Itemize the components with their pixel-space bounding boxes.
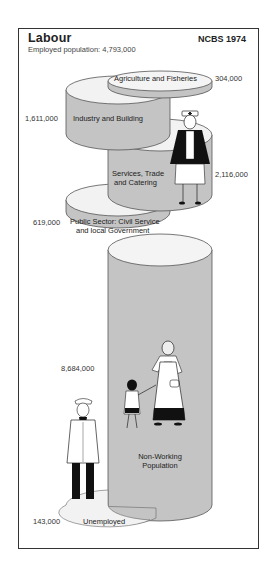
agriculture-value: 304,000 — [215, 74, 242, 83]
nonworking-label-line1: Non-Working — [135, 452, 185, 461]
industry-label: Industry and Building — [73, 114, 143, 123]
services-label-line2: and Catering — [114, 178, 157, 187]
nonworking-value: 8,684,000 — [61, 364, 94, 373]
public-value: 619,000 — [33, 218, 60, 227]
unemployed-man-icon — [67, 399, 99, 500]
unemployed-label: Unemployed — [83, 517, 125, 526]
unemployed-value: 143,000 — [33, 517, 60, 526]
services-label-line1: Services, Trade — [112, 169, 164, 178]
industry-value: 1,611,000 — [25, 114, 58, 123]
cylinder-graphic — [0, 0, 273, 567]
nonworking-label-line2: Population — [135, 461, 185, 470]
public-label-line2: and local Government — [76, 226, 149, 235]
agriculture-label: Agriculture and Fisheries — [114, 74, 197, 83]
services-value: 2,116,000 — [215, 170, 248, 179]
public-label-line1: Public Sector: Civil Service — [70, 217, 160, 226]
